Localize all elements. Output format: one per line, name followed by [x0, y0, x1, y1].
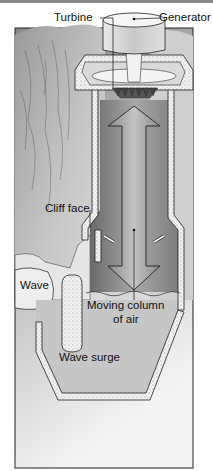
generator-label: Generator [159, 12, 211, 24]
cliff-face-label: Cliff face [45, 203, 90, 215]
wave-label: Wave [20, 280, 49, 292]
wave-power-diagram [0, 0, 213, 471]
moving-column-label-line2: of air [113, 314, 139, 326]
turbine-label: Turbine [54, 12, 93, 24]
moving-column-label-line1: Moving column [87, 300, 164, 312]
wave-surge-label: Wave surge [59, 352, 120, 364]
